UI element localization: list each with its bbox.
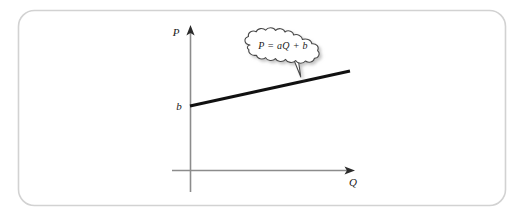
equation-label: P = aQ + b <box>257 40 308 51</box>
supply-line-chart: P Q b P = aQ + b <box>0 0 523 218</box>
y-intercept-label: b <box>176 100 182 112</box>
supply-line <box>190 71 350 106</box>
equation-callout <box>245 28 319 77</box>
y-axis-label: P <box>172 26 180 38</box>
x-axis-label: Q <box>349 176 357 188</box>
figure-container: P Q b P = aQ + b <box>0 0 523 218</box>
